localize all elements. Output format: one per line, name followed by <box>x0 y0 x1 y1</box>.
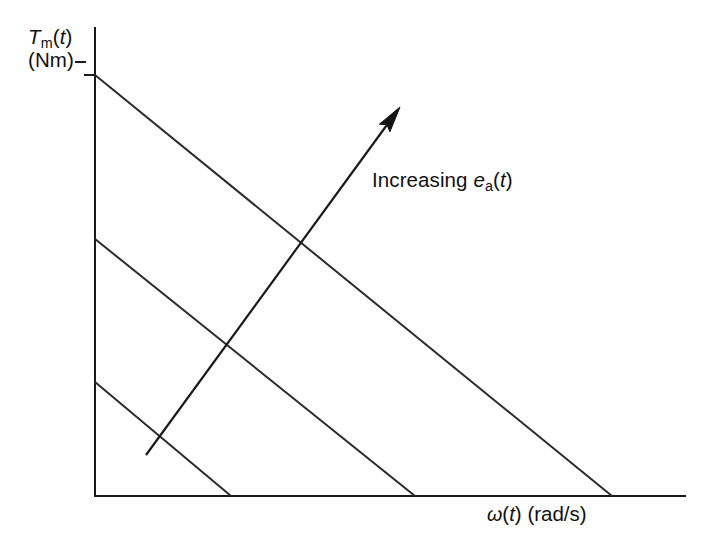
x-axis-label-units: (rad/s) <box>522 502 587 525</box>
y-axis-label-line-quantity: Tm(t) <box>28 26 86 49</box>
increasing-voltage-label: Increasing ea(t) <box>372 169 513 192</box>
curve-high-voltage <box>95 75 612 496</box>
annotation-sub-a: a <box>485 178 493 194</box>
annotation-close-paren: ) <box>506 168 513 191</box>
annotation-prefix-text: Increasing <box>372 168 473 191</box>
curve-low-voltage <box>95 382 231 496</box>
figure-canvas: Tm(t) (Nm) ω(t) (rad/s) Increasing ea(t) <box>0 0 717 552</box>
x-axis-label: ω(t) (rad/s) <box>487 503 587 526</box>
arrow-shaft <box>146 121 390 455</box>
annotation-e-symbol: e <box>473 168 485 191</box>
y-axis-label-line-units: (Nm) <box>28 49 86 72</box>
x-axis-label-close-paren: ) <box>515 502 522 525</box>
y-axis-label: Tm(t) (Nm) <box>28 26 86 72</box>
y-axis-units-text: (Nm) <box>28 48 74 71</box>
curve-mid-voltage <box>95 239 415 496</box>
annotation-open-paren: ( <box>493 168 500 191</box>
arrow-head-icon <box>379 107 400 132</box>
torque-speed-plot <box>0 0 717 552</box>
y-axis-label-close-paren: ) <box>65 25 72 48</box>
y-axis-label-open-paren: ( <box>53 25 60 48</box>
y-axis-label-dash <box>75 61 86 63</box>
x-axis-label-omega: ω <box>487 503 502 525</box>
y-axis-label-T: T <box>28 25 41 48</box>
increasing-voltage-arrow <box>146 107 400 455</box>
